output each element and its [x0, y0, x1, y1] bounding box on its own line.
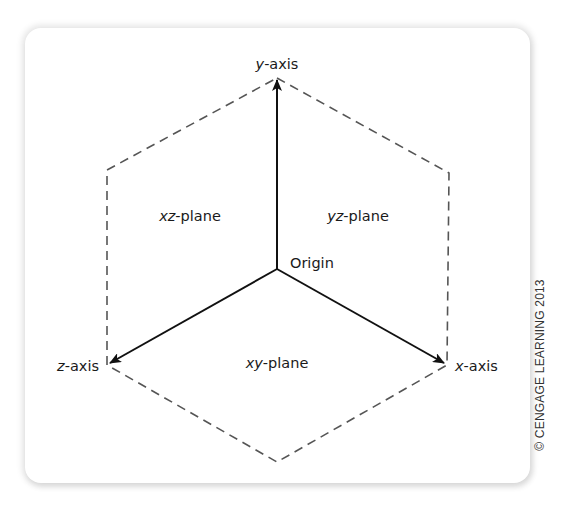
x-axis-arrow	[277, 269, 444, 363]
origin-label: Origin	[290, 255, 334, 271]
xz-plane-label: xz-plane	[158, 208, 221, 224]
yz-plane-label: yz-plane	[326, 208, 389, 224]
y-axis-label: y-axis	[255, 56, 299, 72]
z-axis-arrow	[110, 269, 277, 363]
x-axis-label: x-axis	[454, 358, 498, 374]
z-axis-label: z-axis	[56, 358, 99, 374]
coordinate-planes-diagram: y-axis z-axis x-axis xz-plane yz-plane x…	[0, 0, 565, 507]
xy-plane-label: xy-plane	[245, 355, 309, 371]
copyright-notice: © CENGAGE LEARNING 2013	[533, 279, 547, 451]
